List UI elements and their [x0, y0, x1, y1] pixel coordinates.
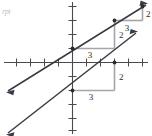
point-lower-y-intercept: [71, 89, 75, 93]
slope-triangle-upper-2: [115, 7, 143, 21]
point-lower-x-intercept: [113, 61, 117, 65]
upper-line-arrow-start: [6, 90, 15, 95]
graph-screenshot: rpt: [0, 0, 152, 136]
run-label-upper-1: 3: [88, 50, 93, 60]
lower-line-arrow-start: [6, 132, 15, 136]
rise-label-upper-2: 2: [146, 9, 151, 19]
coordinate-graph: 3 2 3 2 3 2: [0, 0, 152, 136]
lower-line-arrow-end: [130, 29, 138, 34]
run-label-upper-2: 3: [125, 23, 130, 33]
upper-line-group: [6, 1, 148, 96]
point-upper-y-intercept: [71, 47, 75, 51]
point-upper-second: [113, 19, 117, 23]
rise-label-lower: 2: [119, 72, 124, 82]
run-label-lower: 3: [89, 92, 94, 102]
slope-triangle-upper-1: [73, 21, 115, 49]
rise-label-upper-1: 2: [119, 30, 124, 40]
upper-line: [8, 5, 146, 91]
axis-group: [4, 2, 148, 134]
point-upper-third: [141, 5, 145, 9]
